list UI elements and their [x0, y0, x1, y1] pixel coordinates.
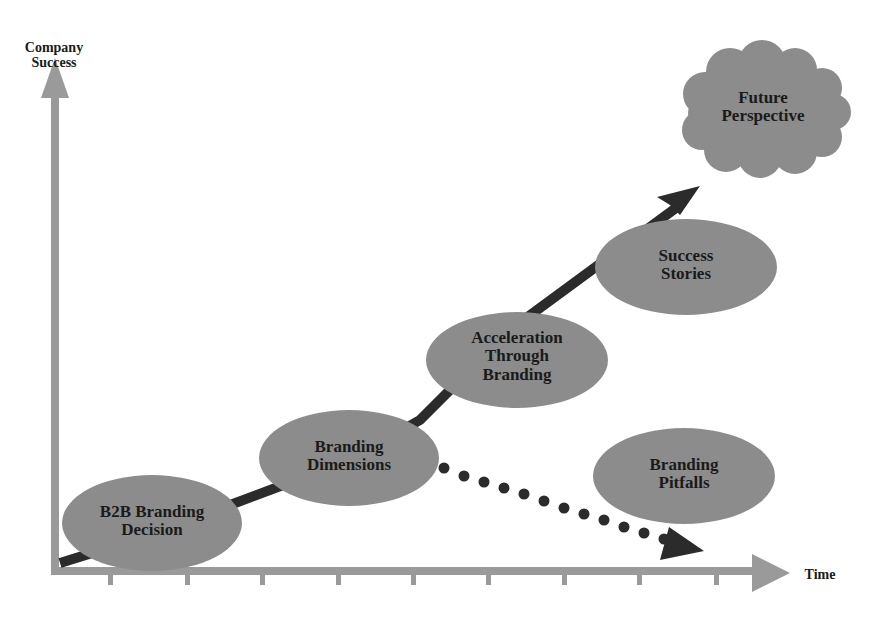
- node-acceleration-line1: Acceleration: [437, 329, 597, 347]
- node-dimensions-label: Branding Dimensions: [269, 438, 429, 475]
- node-pitfalls-line1: Branding: [604, 456, 764, 474]
- node-acceleration-line3: Branding: [437, 366, 597, 384]
- node-success-label: Success Stories: [606, 247, 766, 284]
- node-acceleration-label: Acceleration Through Branding: [437, 329, 597, 384]
- node-success-line2: Stories: [606, 265, 766, 283]
- x-axis-arrow-icon: [752, 554, 790, 592]
- node-pitfalls-line2: Pitfalls: [604, 474, 764, 492]
- node-dimensions-line1: Branding: [269, 438, 429, 456]
- y-axis-label-line1: Company: [22, 40, 86, 55]
- node-acceleration-line2: Through: [437, 347, 597, 365]
- cloud-line2: Perspective: [688, 107, 838, 125]
- node-dimensions-line2: Dimensions: [269, 456, 429, 474]
- node-success-line1: Success: [606, 247, 766, 265]
- cloud-label: Future Perspective: [688, 89, 838, 126]
- x-axis-ticks: [108, 575, 719, 585]
- node-pitfalls-label: Branding Pitfalls: [604, 456, 764, 493]
- x-axis-label: Time: [798, 567, 842, 582]
- y-axis-label: Company Success: [22, 40, 86, 70]
- y-axis: [41, 58, 69, 574]
- pitfall-arrowhead-icon: [660, 527, 704, 560]
- cloud-line1: Future: [688, 89, 838, 107]
- node-b2b-line2: Decision: [72, 521, 232, 539]
- node-b2b-label: B2B Branding Decision: [72, 503, 232, 540]
- node-b2b-line1: B2B Branding: [72, 503, 232, 521]
- path-arrowhead-icon: [657, 186, 700, 215]
- y-axis-label-line2: Success: [22, 55, 86, 70]
